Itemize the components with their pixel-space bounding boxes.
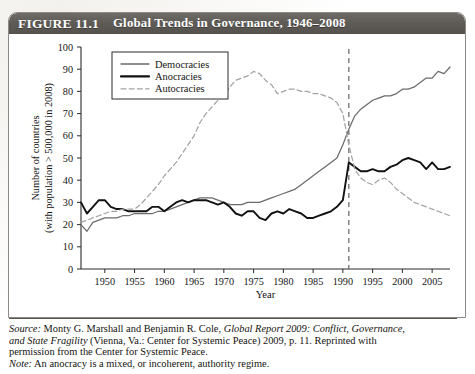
y-tick-label: 20 <box>63 219 73 230</box>
x-tick-label: 1980 <box>273 276 293 287</box>
legend-label-democracies: Democracies <box>155 59 209 70</box>
caption-divider <box>9 318 457 319</box>
x-tick-label: 1960 <box>154 276 174 287</box>
x-tick-label: 1975 <box>243 276 263 287</box>
series-line-anocracies <box>81 158 450 220</box>
y-tick-label: 40 <box>63 175 73 186</box>
caption-source-line-2: and State Fragility (Vienna, Va.: Center… <box>9 335 466 347</box>
figure-title: Global Trends in Governance, 1946–2008 <box>113 16 346 31</box>
y-tick-label: 0 <box>68 264 73 275</box>
caption-note-line: Note: An anocracy is a mixed, or incoher… <box>9 358 466 370</box>
source-label: Source: <box>9 323 41 334</box>
y-tick-label: 80 <box>63 86 73 97</box>
figure-card: FIGURE 11.1 Global Trends in Governance,… <box>8 12 466 318</box>
caption-source-line-1: Source: Monty G. Marshall and Benjamin R… <box>9 323 466 335</box>
source-report-title-part2: and State Fragility <box>9 335 88 346</box>
figure-caption: Source: Monty G. Marshall and Benjamin R… <box>8 318 466 369</box>
x-axis-title: Year <box>256 289 276 300</box>
y-tick-label: 100 <box>58 42 73 53</box>
legend-label-anocracies: Anocracies <box>155 71 202 82</box>
x-tick-label: 1950 <box>95 276 115 287</box>
y-tick-label: 70 <box>63 108 73 119</box>
y-axis-title-line-2: (with population > 500,000 in 2008) <box>43 83 55 233</box>
y-tick-label: 60 <box>63 130 73 141</box>
figure-number: FIGURE 11.1 <box>18 16 99 32</box>
line-chart: 0102030405060708090100195019551960196519… <box>9 34 466 318</box>
legend-label-autocracies: Autocracies <box>155 83 205 94</box>
y-axis-title-line-1: Number of countries <box>30 115 41 200</box>
y-tick-label: 90 <box>63 64 73 75</box>
source-text-b: (Vienna, Va.: Center for Systemic Peace)… <box>88 335 377 346</box>
x-tick-label: 1965 <box>184 276 204 287</box>
note-text: An anocracy is a mixed, or incoherent, a… <box>32 358 269 369</box>
figure-header: FIGURE 11.1 Global Trends in Governance,… <box>9 13 465 34</box>
page-background: FIGURE 11.1 Global Trends in Governance,… <box>0 0 475 374</box>
y-tick-label: 30 <box>63 197 73 208</box>
chart-plot-area: 0102030405060708090100195019551960196519… <box>9 34 466 318</box>
x-tick-label: 1990 <box>333 276 353 287</box>
note-label: Note: <box>9 358 32 369</box>
x-tick-label: 1985 <box>303 276 323 287</box>
source-text-a: Monty G. Marshall and Benjamin R. Cole, <box>41 323 224 334</box>
y-tick-label: 50 <box>63 153 73 164</box>
x-tick-label: 2000 <box>392 276 412 287</box>
x-tick-label: 1970 <box>214 276 234 287</box>
y-tick-label: 10 <box>63 241 73 252</box>
x-tick-label: 1955 <box>124 276 144 287</box>
source-report-title-part1: Global Report 2009: Conflict, Governance… <box>224 323 405 334</box>
x-tick-label: 2005 <box>422 276 442 287</box>
caption-source-line-3: permission from the Center for Systemic … <box>9 346 466 358</box>
x-tick-label: 1995 <box>362 276 382 287</box>
